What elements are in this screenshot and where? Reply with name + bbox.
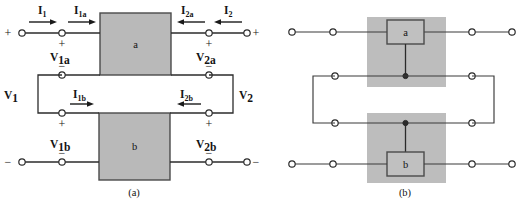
wire-b-right-loop: [472, 76, 494, 123]
arrow-I1a: [68, 19, 96, 25]
arrow-I2: [214, 19, 242, 25]
terminal-top-outer-left: [19, 30, 25, 36]
sign-outer-bottom-right-minus: −: [253, 155, 260, 169]
sign-V2a-minus: −: [206, 59, 213, 73]
arrow-I2a: [177, 19, 205, 25]
sign-V2b-plus: +: [206, 117, 213, 131]
panel-b-block-b-label: b: [403, 159, 408, 170]
terminal-b-bottom-inner-left: [330, 161, 336, 167]
wire-b-left-loop: [313, 76, 335, 123]
wire-right-interconnect: [209, 75, 233, 113]
label-I1a: I1a: [74, 4, 86, 19]
two-port-network-figure: a b: [0, 0, 522, 205]
terminal-b-top-outer-right: [509, 29, 515, 35]
figure-canvas: a b: [0, 0, 522, 205]
sign-outer-bottom-left-minus: −: [5, 155, 12, 169]
caption-panel-b: (b): [399, 187, 412, 199]
label-V2: V2: [239, 89, 253, 104]
terminal-top-inner-left: [59, 30, 65, 36]
block-b-label: b: [132, 141, 137, 152]
sign-V1b-plus: +: [59, 117, 66, 131]
terminal-b-bottom-outer-left: [289, 161, 295, 167]
sign-V1a-plus: +: [59, 37, 66, 51]
terminal-top-outer-right: [244, 30, 250, 36]
terminal-bottom-outer-left: [19, 159, 25, 165]
terminal-b-top-right: [206, 110, 212, 116]
label-I2: I2: [224, 4, 232, 19]
label-V1: V1: [4, 89, 18, 104]
terminal-b-top-inner-left: [330, 29, 336, 35]
sign-V1a-minus: −: [59, 59, 66, 73]
label-I2b: I2b: [180, 88, 193, 103]
label-I1: I1: [38, 4, 46, 19]
panel-b: a b: [289, 17, 515, 199]
terminal-b-bottom-inner-right: [469, 161, 475, 167]
block-a-label: a: [133, 39, 138, 50]
label-I2a: I2a: [181, 4, 193, 19]
sign-V2b-minus: −: [206, 146, 213, 160]
panel-a: a b: [4, 4, 260, 199]
panel-b-block-a-label: a: [403, 27, 408, 38]
arrow-I1: [29, 19, 57, 25]
terminal-b-top-inner-right: [469, 29, 475, 35]
sign-V1b-minus: −: [59, 146, 66, 160]
terminal-bottom-outer-right: [244, 159, 250, 165]
terminal-top-inner-right: [206, 30, 212, 36]
sign-outer-top-right-plus: +: [253, 26, 260, 40]
terminal-b-bottom-outer-right: [509, 161, 515, 167]
wire-left-interconnect: [38, 75, 62, 113]
sign-outer-top-left-plus: +: [5, 26, 12, 40]
terminal-b-top-outer-left: [289, 29, 295, 35]
terminal-b-top-left: [59, 110, 65, 116]
caption-panel-a: (a): [128, 187, 140, 199]
sign-V2a-plus: +: [206, 37, 213, 51]
label-I1b: I1b: [73, 88, 86, 103]
